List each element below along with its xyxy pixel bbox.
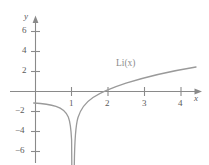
x-tick-label-4: 4 <box>178 99 183 108</box>
y-axis-label: y <box>24 12 28 21</box>
y-tick-label-4: 4 <box>22 46 27 55</box>
x-axis-label: x <box>194 94 198 103</box>
li-function-plot <box>0 0 209 165</box>
x-axis <box>10 89 202 95</box>
x-tick-label-1: 1 <box>69 99 74 108</box>
y-axis <box>33 16 39 164</box>
li-curve-left-branch <box>34 103 72 165</box>
li-curve-right-branch <box>74 67 196 165</box>
y-tick-label-2: 2 <box>22 66 27 75</box>
y-axis-arrow <box>33 16 39 24</box>
y-tick-label-minus-4: −4 <box>15 126 25 135</box>
x-tick-label-2: 2 <box>105 99 110 108</box>
y-tick-label-minus-2: −2 <box>15 106 25 115</box>
x-tick-label-3: 3 <box>142 99 147 108</box>
y-tick-label-6: 6 <box>22 26 27 35</box>
curve-label-li-x: Li(x) <box>116 59 136 69</box>
plot-figure: y x 6 4 2 −2 −4 −6 1 2 3 4 Li(x) <box>0 0 209 165</box>
y-tick-label-minus-6: −6 <box>15 146 25 155</box>
